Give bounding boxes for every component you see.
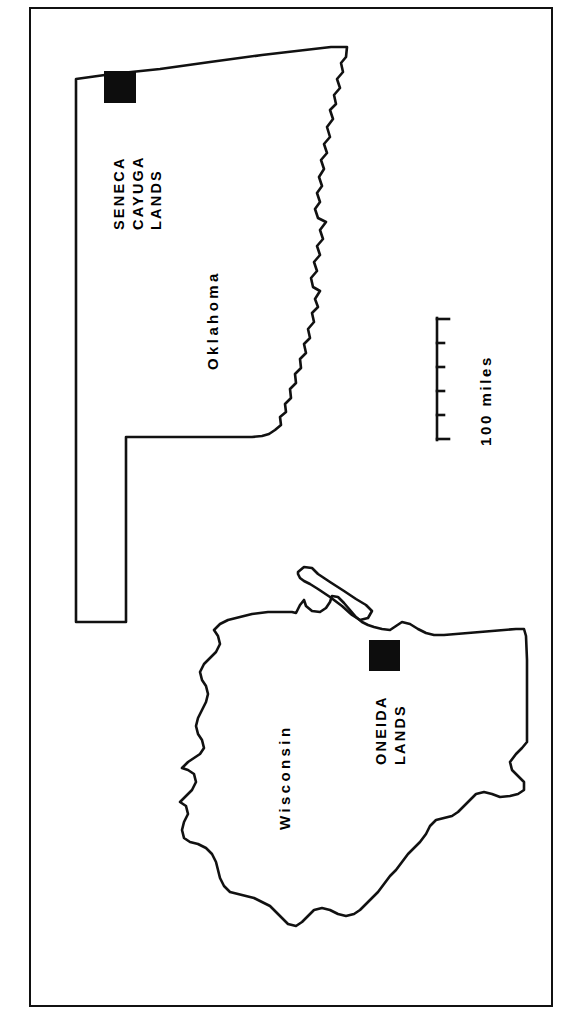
wisconsin-mainland-outline: [180, 596, 527, 926]
lands-label-line: ONEIDA: [374, 695, 389, 765]
map-artwork: [0, 0, 568, 1020]
oneida-lands-label: ONEIDA LANDS: [374, 695, 407, 765]
oklahoma-state-label: Oklahoma: [205, 270, 220, 370]
state-label-text: Wisconsin: [277, 725, 292, 830]
scale-bar-label-text: 100 miles: [478, 355, 493, 446]
state-label-text: Oklahoma: [205, 270, 220, 370]
seneca-cayuga-lands-marker: [104, 71, 136, 103]
wisconsin-outline: [298, 567, 372, 620]
wisconsin-state-label: Wisconsin: [277, 725, 292, 830]
oneida-lands-marker: [369, 640, 400, 671]
map-figure: SENECA CAYUGA LANDS Oklahoma 100 miles O…: [0, 0, 568, 1020]
lands-label-line: LANDS: [393, 695, 408, 765]
lands-label-line: SENECA: [112, 155, 127, 230]
lands-label-line: LANDS: [149, 155, 164, 230]
scale-bar-label: 100 miles: [478, 355, 493, 446]
lands-label-line: CAYUGA: [131, 155, 146, 230]
scale-bar: [437, 318, 449, 440]
seneca-cayuga-lands-label: SENECA CAYUGA LANDS: [112, 155, 164, 230]
